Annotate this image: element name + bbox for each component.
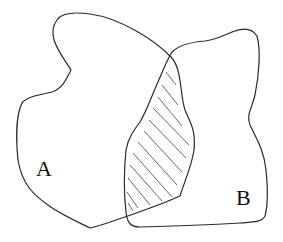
set-a-outline xyxy=(17,13,195,228)
set-a-label: A xyxy=(36,158,52,180)
venn-diagram: A B xyxy=(0,0,283,242)
hatch-lines xyxy=(127,72,189,211)
set-b-label: B xyxy=(236,187,251,209)
